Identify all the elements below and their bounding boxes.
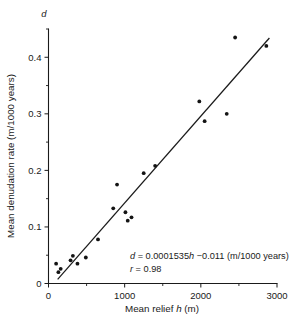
data-point	[225, 112, 229, 116]
x-axis-tick-labels: 0100020003000	[46, 290, 288, 301]
regression-line	[58, 38, 270, 279]
data-point	[57, 270, 61, 274]
data-point	[142, 171, 146, 175]
scatter-plot: d 00.10.20.30.4 0100020003000 d = 0.0001…	[0, 0, 300, 334]
x-axis-ticks	[49, 284, 278, 288]
y-tick-label: 0.2	[28, 165, 41, 176]
y-axis-title: Mean denudation rate (m/1000 years)	[5, 74, 16, 238]
y-axis-symbol: d	[41, 8, 47, 19]
y-tick-label: 0	[36, 278, 41, 289]
correlation-annotation: r = 0.98	[130, 264, 161, 274]
data-point	[197, 99, 201, 103]
x-tick-label: 0	[46, 290, 51, 301]
data-point	[203, 119, 207, 123]
x-tick-label: 3000	[266, 290, 287, 301]
y-axis-ticks	[45, 29, 49, 284]
equation-annotation: d = 0.0001535h −0.011 (m/1000 years)	[130, 251, 289, 261]
data-point	[84, 256, 88, 260]
data-point	[76, 262, 80, 266]
data-point	[126, 219, 130, 223]
data-point	[71, 254, 75, 258]
x-axis-title: Mean relief h (m)	[125, 303, 199, 314]
y-tick-label: 0.4	[28, 52, 41, 63]
data-points	[54, 36, 268, 275]
data-point	[233, 36, 237, 40]
y-tick-label: 0.1	[28, 221, 41, 232]
data-point	[264, 44, 268, 48]
chart-figure: d 00.10.20.30.4 0100020003000 d = 0.0001…	[0, 0, 300, 334]
data-point	[111, 206, 115, 210]
data-point	[59, 267, 63, 271]
data-point	[69, 258, 73, 262]
data-point	[96, 237, 100, 241]
x-tick-label: 1000	[114, 290, 135, 301]
data-point	[124, 210, 128, 214]
data-point	[115, 183, 119, 187]
data-point	[54, 262, 58, 266]
x-tick-label: 2000	[190, 290, 211, 301]
data-point	[130, 215, 134, 219]
y-axis-tick-labels: 00.10.20.30.4	[28, 52, 41, 289]
y-tick-label: 0.3	[28, 108, 41, 119]
data-point	[153, 164, 157, 168]
